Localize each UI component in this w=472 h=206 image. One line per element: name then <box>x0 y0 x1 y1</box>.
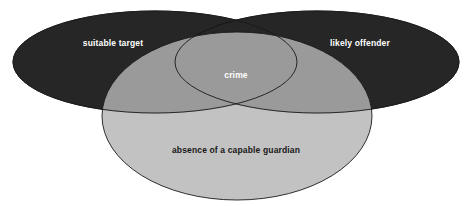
venn-diagram: suitable target likely offender crime ab… <box>0 0 472 206</box>
label-crime: crime <box>224 70 248 80</box>
label-absence-of-a-capable-guardian: absence of a capable guardian <box>172 145 300 155</box>
venn-diagram-canvas: suitable target likely offender crime ab… <box>0 0 472 206</box>
label-likely-offender: likely offender <box>330 38 390 48</box>
ellipse-absence-of-a-capable-guardian[interactable] <box>102 32 372 200</box>
label-suitable-target: suitable target <box>83 38 143 48</box>
